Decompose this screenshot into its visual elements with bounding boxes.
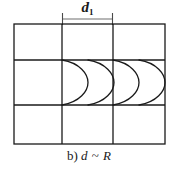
caption-prefix: b): [67, 148, 78, 163]
caption-symbol-right: R: [103, 148, 111, 163]
dimension-label-subscript: 1: [89, 7, 94, 17]
figure-container: d1 b) d ~ R: [0, 0, 178, 174]
caption-relation: ~: [91, 148, 100, 163]
figure-caption: b) d ~ R: [0, 148, 178, 164]
arc-4: [139, 60, 165, 105]
dimension-label-symbol: d: [82, 0, 90, 15]
arc-3: [113, 60, 139, 105]
arc-1: [62, 60, 88, 105]
grid-horizontal-lines: [14, 60, 165, 105]
dimension-label: d1: [62, 0, 113, 21]
grid-outer-rectangle: [14, 24, 165, 144]
caption-symbol-left: d: [81, 148, 88, 163]
arc-2: [88, 60, 114, 105]
